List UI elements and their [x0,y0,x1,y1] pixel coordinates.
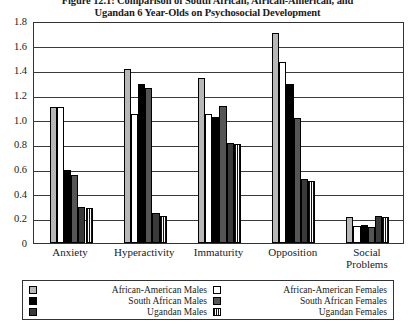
bar [205,114,212,244]
swatch-south-african-females [213,297,221,305]
x-axis-category-label: SocialProblems [330,246,404,270]
category-label-line: Opposition [256,246,330,258]
bar [375,216,382,243]
bar [346,217,353,243]
plot-area [33,22,404,244]
y-axis-tick-label: 1.2 [14,91,27,101]
bar [160,216,167,243]
bar [361,225,368,244]
bar [212,117,219,243]
bar-group [272,23,315,243]
x-axis-category-labels: AnxietyHyperactivityImmaturityOpposition… [33,246,404,274]
y-axis-tick-label: 0.8 [14,140,27,150]
legend-column-males: African-American MalesSouth African Male… [29,284,209,318]
bar [382,217,389,243]
bar [234,144,241,243]
legend-item-label: Ugandan Females [221,307,389,317]
y-axis-tick-label: 1.0 [14,116,27,126]
swatch-south-african-males [29,297,37,305]
bar [78,207,85,243]
swatch-ugandan-males [29,308,37,316]
bar [219,106,226,243]
chart-title-line-2: Ugandan 6 Year-Olds on Psychosocial Deve… [0,7,415,19]
bar [50,107,57,243]
y-axis-tick-labels: 1.81.61.41.21.00.80.60.40.20 [0,22,31,244]
y-axis-tick-label: 1.8 [14,17,27,27]
bar [279,62,286,243]
legend-item[interactable]: South African Males [29,295,209,306]
x-axis-category-label: Anxiety [33,246,107,258]
bar [145,88,152,243]
x-axis-category-label: Hyperactivity [107,246,181,258]
bar [294,118,301,243]
y-axis-tick-label: 0.6 [14,165,27,175]
x-axis-category-label: Immaturity [181,246,255,258]
legend-item-label: South African Females [221,296,389,306]
bar [301,179,308,243]
chart-title-line-1: Figure 12.1: Comparison of South African… [0,0,415,7]
bar [198,78,205,243]
legend-item[interactable]: Ugandan Females [213,306,389,317]
legend-item[interactable]: South African Females [213,295,389,306]
chart-title: Figure 12.1: Comparison of South African… [0,0,415,19]
bar-group [346,23,389,243]
bar [71,175,78,243]
legend-item-label: Ugandan Males [37,307,209,317]
bar [57,107,64,243]
chart-legend: African-American MalesSouth African Male… [22,280,394,320]
bar-group [50,23,93,243]
legend-item-label: African-American Females [221,285,389,295]
bar [353,226,360,243]
y-axis-tick-label: 1.4 [14,66,27,76]
x-axis-category-label: Opposition [256,246,330,258]
swatch-african-american-females [213,286,221,294]
legend-column-females: African-American FemalesSouth African Fe… [213,284,389,318]
bar-group [198,23,241,243]
bar [124,69,131,243]
category-label-line: Immaturity [181,246,255,258]
legend-item[interactable]: African-American Males [29,284,209,295]
y-axis-tick-label: 1.6 [14,42,27,52]
bar [286,84,293,243]
bar [308,181,315,243]
swatch-african-american-males [29,286,37,294]
category-label-line: Problems [330,258,404,270]
bar [138,84,145,243]
category-label-line: Hyperactivity [107,246,181,258]
category-label-line: Anxiety [33,246,107,258]
bar [272,33,279,243]
y-axis-tick-label: 0 [22,239,27,249]
bar [64,170,71,243]
bar [152,213,159,243]
figure-container: Figure 12.1: Comparison of South African… [0,0,415,324]
bar [86,208,93,243]
swatch-ugandan-females [213,308,221,316]
legend-item-label: South African Males [37,296,209,306]
y-axis-tick-label: 0.2 [14,214,27,224]
bar-group [124,23,167,243]
legend-item-label: African-American Males [37,285,209,295]
bar [227,143,234,243]
legend-item[interactable]: Ugandan Males [29,306,209,317]
bar-series-container [34,23,403,243]
y-axis-tick-label: 0.4 [14,190,27,200]
category-label-line: Social [330,246,404,258]
bar [368,227,375,243]
legend-item[interactable]: African-American Females [213,284,389,295]
bar [131,114,138,244]
